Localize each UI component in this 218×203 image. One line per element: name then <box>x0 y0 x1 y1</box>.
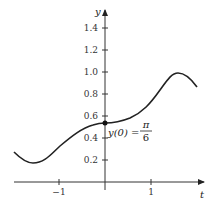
y-tick-label: 1.4 <box>84 23 99 33</box>
x-tick-label: −1 <box>52 187 65 197</box>
y-tick-label: 0.2 <box>84 155 98 165</box>
initial-condition-point <box>103 121 108 126</box>
x-tick-label: 1 <box>148 187 154 197</box>
annot-lhs: y(0) = <box>107 127 139 138</box>
y-axis-label: y <box>94 6 101 17</box>
x-axis-label: t <box>200 189 205 200</box>
y-tick-label: 0.6 <box>84 111 99 121</box>
y-tick-label: 0.4 <box>84 133 99 143</box>
y-tick-labels: 1.4 1.2 1.0 0.8 0.6 0.4 0.2 <box>84 23 99 165</box>
y-tick-label: 1.0 <box>84 67 99 77</box>
annot-numerator: π <box>142 119 150 130</box>
annot-denominator: 6 <box>143 132 149 143</box>
y-tick-label: 1.2 <box>84 45 98 55</box>
chart: 1.4 1.2 1.0 0.8 0.6 0.4 0.2 −1 1 y t y(0… <box>0 0 218 203</box>
y-tick-label: 0.8 <box>84 89 99 99</box>
